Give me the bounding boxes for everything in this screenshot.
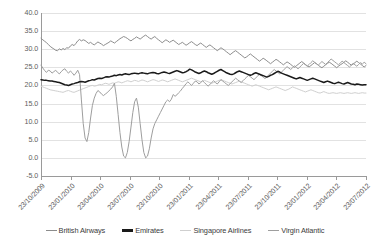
x-axis-tick-mark (307, 176, 308, 180)
y-axis-tick-label: 20.0 (2, 81, 38, 89)
x-axis-tick-mark (248, 176, 249, 180)
gridline (41, 67, 366, 68)
legend-item-british-airways[interactable]: British Airways (46, 226, 106, 235)
y-axis-tick-label: 40.0 (2, 9, 38, 17)
x-axis-tick-mark (100, 176, 101, 180)
legend-swatch-icon (268, 230, 279, 232)
x-axis-tick-mark (366, 176, 367, 180)
legend-label: Virgin Atlantic (281, 226, 324, 235)
legend-label: Emirates (135, 226, 163, 235)
legend-item-singapore-airlines[interactable]: Singapore Airlines (180, 226, 251, 235)
y-axis-tick-label: 5.0 (2, 136, 38, 144)
legend-swatch-icon (122, 229, 133, 231)
y-axis-line (41, 13, 42, 177)
gridline (41, 85, 366, 86)
legend-swatch-icon (180, 230, 191, 232)
gridline (41, 31, 366, 32)
y-axis-tick-label: 10.0 (2, 118, 38, 126)
legend-label: British Airways (59, 226, 106, 235)
legend-item-emirates[interactable]: Emirates (122, 226, 163, 235)
x-axis-tick-mark (218, 176, 219, 180)
y-axis-tick-label: 35.0 (2, 27, 38, 35)
x-axis-tick-mark (130, 176, 131, 180)
gridline (41, 104, 366, 105)
gridline (41, 49, 366, 50)
y-axis-tick-label: 30.0 (2, 45, 38, 53)
x-axis-tick-mark (71, 176, 72, 180)
x-axis-tick-mark (41, 176, 42, 180)
x-axis-tick-mark (277, 176, 278, 180)
gridline (41, 158, 366, 159)
plot-area (41, 13, 366, 176)
x-axis-tick-mark (336, 176, 337, 180)
legend-divider (0, 219, 370, 220)
legend-item-virgin-atlantic[interactable]: Virgin Atlantic (268, 226, 324, 235)
gridline (41, 13, 366, 14)
y-axis-tick-label: -5.0 (2, 172, 38, 180)
chart-legend: British AirwaysEmiratesSingapore Airline… (0, 226, 370, 235)
x-axis-tick-mark (189, 176, 190, 180)
legend-label: Singapore Airlines (193, 226, 251, 235)
gridline (41, 122, 366, 123)
x-axis-line (41, 176, 366, 177)
y-axis-tick-label: 15.0 (2, 100, 38, 108)
y-axis-tick-label: 0.0 (2, 154, 38, 162)
gridline (41, 140, 366, 141)
y-axis-tick-label: 25.0 (2, 63, 38, 71)
x-axis-tick-mark (159, 176, 160, 180)
legend-swatch-icon (46, 230, 57, 232)
